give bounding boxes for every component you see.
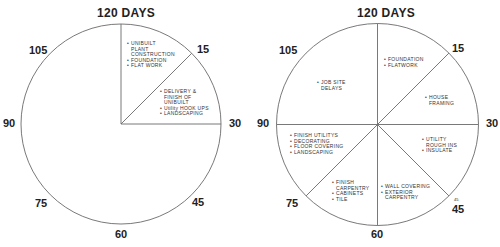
left-tick-75: 75	[35, 197, 47, 209]
left-tick-90: 90	[3, 117, 15, 129]
right-wedge-75-90: •FINISH UTILITYS •DECORATING •FLOOR COVE…	[290, 133, 343, 155]
right-wedge-15-30: •HOUSEFRAMING	[425, 95, 454, 106]
right-tick-15: 15	[452, 42, 464, 54]
left-timeline-circle	[21, 24, 221, 224]
wedge-item: •FLATWORK	[384, 63, 424, 69]
wedge-item: •DELIVERY &FINISH OFUNIBUILT	[160, 89, 209, 106]
wedge-item: •JOB SITEDELAYS	[317, 80, 346, 91]
right-wedge-45-60: •WALL COVERING •EXTERIORCARPENTRY	[381, 184, 430, 201]
right-tick-75: 75	[286, 197, 298, 209]
right-tick-45: 45	[452, 203, 464, 215]
left-tick-60: 60	[115, 228, 127, 240]
left-tick-30: 30	[229, 117, 241, 129]
right-tick-90: 90	[257, 117, 269, 129]
left-wedge-0-15: •UNIBUILTPLANTCONSTRUCTION •FOUNDATION •…	[127, 41, 175, 69]
wedge-item: •TILE	[332, 197, 369, 203]
wedge-item: •INSULATE	[422, 148, 457, 154]
left-wedge-15-30: •DELIVERY &FINISH OFUNIBUILT •Utility HO…	[160, 89, 209, 117]
right-wedge-90-120: •JOB SITEDELAYS	[317, 80, 346, 91]
wedge-item: •FLAT WORK	[127, 63, 175, 69]
right-tick-30: 30	[486, 117, 498, 129]
right-wedge-60-75: •FINISHCARPENTRY •CABINETS •TILE	[332, 180, 369, 202]
right-wedge-30-45: •UTILITYROUGH INS •INSULATE	[422, 137, 457, 154]
left-chart-title: 120 DAYS	[97, 6, 155, 20]
right-timeline-circle	[277, 24, 479, 226]
diagram-graphics	[0, 0, 500, 247]
wedge-item: •HOUSEFRAMING	[425, 95, 454, 106]
wedge-item: •LANDSCAPING	[290, 150, 343, 156]
right-tick-105: 105	[279, 44, 297, 56]
right-chart-title: 120 DAYS	[357, 6, 415, 20]
wedge-item: •LANDSCAPING	[160, 111, 209, 117]
left-tick-15: 15	[197, 43, 209, 55]
right-tick-45-small: 45	[454, 197, 458, 202]
right-wedge-0-15: •FOUNDATION •FLATWORK	[384, 57, 424, 68]
left-tick-105: 105	[29, 44, 47, 56]
wedge-item: •EXTERIORCARPENTRY	[381, 190, 430, 201]
wedge-item: •UNIBUILTPLANTCONSTRUCTION	[127, 41, 175, 58]
right-tick-60: 60	[371, 228, 383, 240]
left-tick-45: 45	[192, 196, 204, 208]
